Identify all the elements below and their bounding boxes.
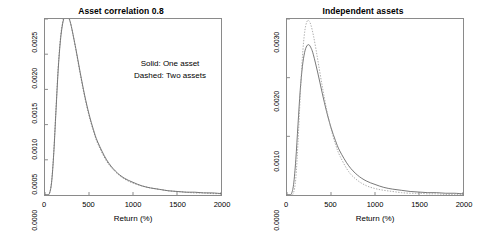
- x-tick-label: 2000: [456, 200, 473, 209]
- y-tick-label: 0.0015: [35, 103, 42, 124]
- legend-annotation-left: Solid: One asset Dashed: Two assets: [110, 58, 230, 82]
- plot-svg-right: [287, 19, 463, 195]
- panel-title-left: Asset correlation 0.8: [0, 6, 242, 16]
- x-tick-label: 0: [284, 200, 288, 209]
- x-axis-label-right: Return (%): [286, 214, 464, 223]
- series-group-left: [45, 19, 221, 195]
- y-tick-label: 0.0005: [35, 174, 42, 195]
- x-tick-label: 2000: [214, 200, 231, 209]
- x-tick-label: 0: [42, 200, 46, 209]
- y-tick-label: 0.0030: [277, 32, 284, 53]
- x-tick-label: 500: [324, 200, 337, 209]
- y-tick-label: 0.0010: [35, 139, 42, 160]
- x-tick-label: 1500: [411, 200, 428, 209]
- series-line-two-assets: [45, 19, 221, 195]
- panel-independent-assets: Independent assets 0.00000.00100.00200.0…: [242, 0, 484, 238]
- x-axis-tick-labels-right: 0500100015002000: [286, 200, 464, 212]
- y-tick-label: 0.0000: [277, 210, 284, 231]
- y-tick-label: 0.0020: [35, 68, 42, 89]
- plot-svg-left: [45, 19, 221, 195]
- x-axis-label-left: Return (%): [44, 214, 222, 223]
- x-tick-label: 500: [82, 200, 95, 209]
- y-axis-tick-labels-right: 0.00000.00100.00200.0030: [242, 18, 284, 196]
- panel-asset-correlation: Asset correlation 0.8 0.00000.00050.0010…: [0, 0, 242, 238]
- x-tick-label: 1000: [367, 200, 384, 209]
- y-tick-label: 0.0000: [35, 210, 42, 231]
- series-line-one-asset: [287, 45, 463, 195]
- plot-area-left: [44, 18, 222, 196]
- series-group-right: [287, 19, 463, 195]
- panel-title-right: Independent assets: [242, 6, 484, 16]
- legend-line-solid-left: Solid: One asset: [110, 58, 230, 70]
- plot-area-right: [286, 18, 464, 196]
- legend-line-dashed-left: Dashed: Two assets: [110, 70, 230, 82]
- series-line-one-asset: [45, 19, 221, 195]
- y-tick-label: 0.0025: [35, 32, 42, 53]
- y-axis-tick-labels-left: 0.00000.00050.00100.00150.00200.0025: [0, 18, 42, 196]
- y-tick-label: 0.0010: [277, 151, 284, 172]
- x-tick-label: 1500: [169, 200, 186, 209]
- series-line-two-assets: [287, 20, 463, 195]
- x-tick-label: 1000: [125, 200, 142, 209]
- figure-two-panel-return-distributions: Asset correlation 0.8 0.00000.00050.0010…: [0, 0, 484, 238]
- y-tick-label: 0.0020: [277, 91, 284, 112]
- x-axis-tick-labels-left: 0500100015002000: [44, 200, 222, 212]
